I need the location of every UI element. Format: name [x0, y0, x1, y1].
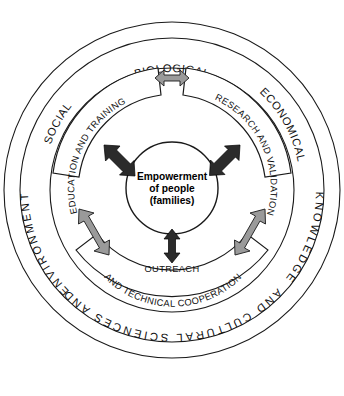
center-label-line1: Empowerment [137, 171, 208, 182]
center-label-line3: (families) [150, 195, 195, 206]
ring-label-knowledge: KNOWLEDGE [282, 192, 326, 287]
arrow-right-dark [210, 145, 241, 176]
diagram-root: BIOLOGICAL SOCIAL ECONOMICAL AND CULTURA… [0, 0, 344, 396]
framework-diagram: BIOLOGICAL SOCIAL ECONOMICAL AND CULTURA… [0, 0, 344, 396]
sector-outreach-label-line1: OUTREACH [145, 264, 200, 274]
arrow-left-dark [104, 145, 135, 176]
center-label-line2: of people [149, 183, 195, 194]
